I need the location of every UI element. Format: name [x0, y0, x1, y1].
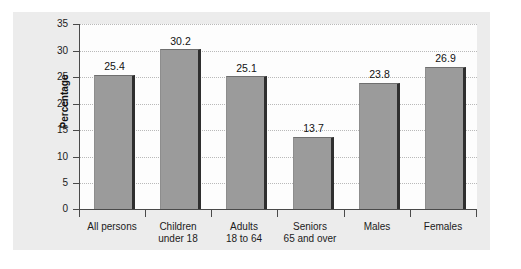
y-tick-10 [73, 157, 79, 158]
x-category-line-2: under 18 [145, 233, 211, 245]
bar-children-under-18[interactable] [160, 49, 201, 209]
x-category-label-adults-18-to-64: Adults 18 to 64 [211, 221, 277, 245]
bar-value-children-under-18: 30.2 [155, 36, 206, 47]
x-tick-0 [79, 210, 80, 217]
y-axis-title: Percentage [59, 62, 70, 142]
gridline-25 [79, 77, 477, 78]
bar-males[interactable] [359, 83, 400, 209]
gridline-30 [79, 51, 477, 52]
plot-area [79, 24, 477, 210]
x-category-line-1: Males [344, 221, 410, 233]
y-tick-5 [73, 183, 79, 184]
y-tick-label-30: 30 [46, 46, 68, 56]
bar-all-persons[interactable] [94, 75, 135, 209]
bar-seniors-65-and-over[interactable] [293, 137, 334, 209]
y-tick-15 [73, 130, 79, 131]
x-axis-line [79, 209, 477, 210]
x-tick-3 [277, 210, 278, 217]
gridline-15 [79, 130, 477, 131]
x-category-label-all-persons: All persons [79, 221, 145, 233]
bar-value-seniors-65-and-over: 13.7 [288, 123, 339, 134]
x-tick-5 [410, 210, 411, 217]
y-tick-label-5: 5 [46, 178, 68, 188]
bar-value-adults-18-to-64: 25.1 [221, 63, 272, 74]
x-category-line-2: 65 and over [274, 233, 346, 245]
x-tick-4 [344, 210, 345, 217]
x-category-label-females: Females [410, 221, 476, 233]
bar-value-males: 23.8 [354, 69, 405, 80]
gridline-5 [79, 183, 477, 184]
chart-figure: 35 30 25 20 15 10 5 0 Percentage 25.4 30… [0, 0, 521, 269]
y-tick-label-10: 10 [46, 152, 68, 162]
x-tick-1 [145, 210, 146, 217]
x-category-line-1: All persons [79, 221, 145, 233]
bar-value-all-persons: 25.4 [89, 61, 140, 72]
gridline-20 [79, 104, 477, 105]
x-category-label-seniors-65-and-over: Seniors 65 and over [274, 221, 346, 245]
x-category-line-1: Children [145, 221, 211, 233]
gridline-35 [79, 24, 477, 25]
x-tick-2 [211, 210, 212, 217]
x-category-label-children-under-18: Children under 18 [145, 221, 211, 245]
x-tick-6 [476, 210, 477, 217]
bar-value-females: 26.9 [420, 53, 471, 64]
y-axis-line [79, 24, 80, 210]
y-tick-25 [73, 77, 79, 78]
x-category-line-1: Adults [211, 221, 277, 233]
bar-adults-18-to-64[interactable] [226, 76, 267, 209]
gridline-10 [79, 157, 477, 158]
y-tick-30 [73, 51, 79, 52]
x-category-label-males: Males [344, 221, 410, 233]
x-category-line-2: 18 to 64 [211, 233, 277, 245]
y-tick-label-35: 35 [46, 19, 68, 29]
x-category-line-1: Females [410, 221, 476, 233]
y-tick-label-0: 0 [46, 204, 68, 214]
y-tick-20 [73, 104, 79, 105]
bar-females[interactable] [425, 67, 466, 209]
x-category-line-1: Seniors [274, 221, 346, 233]
y-tick-35 [73, 24, 79, 25]
